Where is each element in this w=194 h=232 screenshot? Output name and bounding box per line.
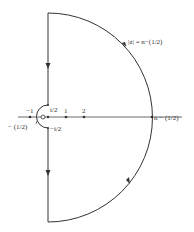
point-n-minus-half bbox=[151, 116, 154, 119]
arrow-down-icon bbox=[46, 63, 51, 69]
arc-label: |z| = n−(1/2) bbox=[128, 38, 163, 46]
minus-half-label: − (1/2) bbox=[8, 123, 28, 131]
origin-marker bbox=[41, 115, 45, 119]
one-label: 1 bbox=[64, 107, 68, 115]
minus-half-tick bbox=[36, 121, 37, 124]
right-point-label: n − (1/2) bbox=[154, 114, 179, 122]
point-origin-right bbox=[47, 116, 49, 118]
two-label: 2 bbox=[82, 107, 86, 115]
minus-i-half-label: −i/2 bbox=[50, 125, 62, 133]
point-i-half bbox=[47, 104, 49, 106]
point-minus-one bbox=[29, 116, 32, 119]
point-minus-i-half bbox=[47, 127, 49, 129]
point-one bbox=[65, 116, 68, 119]
contour-diagram: |z| = n−(1/2) n − (1/2) i/2 −i/2 −1 − (1… bbox=[0, 0, 194, 232]
arrow-down-icon bbox=[46, 170, 51, 176]
arc-arrow-icon bbox=[126, 177, 130, 184]
minus-one-label: −1 bbox=[26, 107, 34, 115]
point-two bbox=[83, 116, 86, 119]
i-half-label: i/2 bbox=[50, 106, 58, 114]
